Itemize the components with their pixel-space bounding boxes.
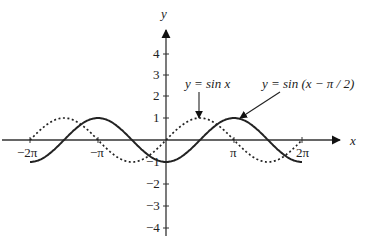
y-tick-3: 3	[153, 67, 160, 82]
x-axis-label: x	[349, 133, 356, 148]
x-tick-neg2pi: −2π	[17, 145, 38, 160]
y-tick-2: 2	[153, 88, 160, 103]
x-tick-pi: π	[230, 145, 237, 160]
sin-x-label: y = sin x	[183, 76, 230, 91]
y-tick-neg3: −3	[146, 198, 160, 213]
y-tick-neg2: −2	[146, 176, 160, 191]
y-tick-1: 1	[153, 110, 160, 125]
shifted-pointer	[240, 92, 280, 118]
y-axis-label: y	[159, 6, 167, 21]
y-tick-neg4: −4	[146, 220, 160, 235]
chart: y x 4 3 2 1 −1 −2 −3 −4 −2π −π π 2π y = …	[0, 0, 372, 241]
x-tick-2pi: 2π	[296, 145, 310, 160]
y-tick-neg1: −1	[146, 154, 160, 169]
y-tick-4: 4	[153, 46, 160, 61]
x-tick-negpi: −π	[90, 145, 104, 160]
shifted-label: y = sin (x − π / 2)	[260, 76, 354, 91]
